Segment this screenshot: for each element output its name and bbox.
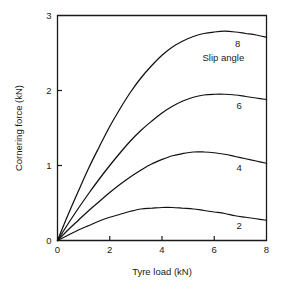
x-tick-label: 6 bbox=[212, 244, 217, 255]
y-tick-label: 3 bbox=[46, 10, 51, 21]
curve-label-2: 2 bbox=[236, 220, 241, 231]
x-axis-label: Tyre load (kN) bbox=[132, 266, 192, 277]
chart-figure: 024680123 8642 Slip angle Tyre load (kN)… bbox=[0, 0, 292, 293]
curve-label-4: 4 bbox=[236, 162, 241, 173]
chart-annotations: Slip angle bbox=[203, 52, 245, 63]
annotation-slip-angle: Slip angle bbox=[203, 52, 245, 63]
y-tick-label: 2 bbox=[46, 85, 51, 96]
x-tick-label: 8 bbox=[264, 244, 269, 255]
curve-label-8: 8 bbox=[235, 38, 240, 49]
y-tick-label: 0 bbox=[46, 235, 51, 246]
x-tick-label: 4 bbox=[159, 244, 164, 255]
x-tick-label: 0 bbox=[55, 244, 60, 255]
chart-background bbox=[0, 0, 292, 293]
y-axis-label: Cornering force (kN) bbox=[13, 85, 24, 171]
x-tick-label: 2 bbox=[107, 244, 112, 255]
cornering-force-chart: 024680123 8642 Slip angle Tyre load (kN)… bbox=[0, 0, 292, 293]
y-tick-label: 1 bbox=[46, 160, 51, 171]
curve-label-6: 6 bbox=[236, 100, 241, 111]
